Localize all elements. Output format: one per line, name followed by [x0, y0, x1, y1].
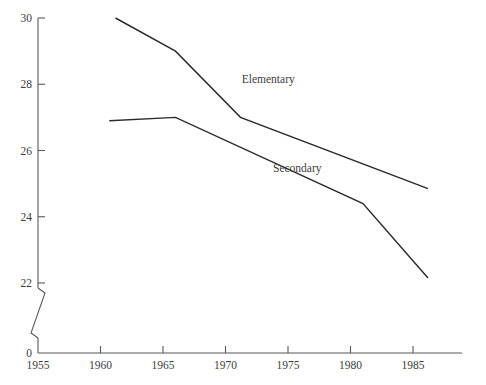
x-axis-tick-label: 1980 [339, 359, 362, 371]
y-axis-tick-label: 26 [21, 145, 33, 157]
x-axis-tick-label: 1960 [89, 359, 112, 371]
y-axis-tick-label: 28 [21, 78, 33, 90]
y-axis-zero-label: 0 [26, 347, 32, 359]
line-chart: 30282624220 1955196019651970197519801985… [0, 0, 486, 385]
y-axis-tick-label: 24 [21, 211, 33, 223]
chart-container: 30282624220 1955196019651970197519801985… [0, 0, 486, 385]
y-axis-break-symbol [31, 288, 45, 338]
y-axis: 30282624220 [21, 12, 46, 359]
x-axis: 1955196019651970197519801985 [27, 346, 463, 371]
series-line-elementary [116, 18, 429, 189]
series-label-elementary: Elementary [242, 73, 295, 86]
x-axis-tick-label: 1970 [214, 359, 237, 371]
series-lines [109, 18, 428, 278]
x-axis-tick-label: 1985 [402, 359, 425, 371]
x-axis-tick-label: 1955 [27, 359, 50, 371]
y-axis-tick-label: 30 [21, 12, 33, 24]
series-line-secondary [109, 117, 428, 278]
series-annotations: ElementarySecondary [242, 73, 322, 175]
series-label-secondary: Secondary [273, 162, 322, 175]
y-axis-tick-label: 22 [21, 277, 33, 289]
x-axis-tick-label: 1965 [152, 359, 175, 371]
x-axis-tick-label: 1975 [277, 359, 300, 371]
